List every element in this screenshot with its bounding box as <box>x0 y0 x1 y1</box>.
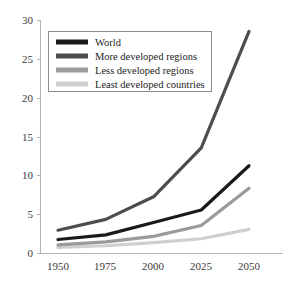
x-tick-label-2025: 2025 <box>190 260 213 272</box>
x-tick-label-2050: 2050 <box>238 260 261 272</box>
x-tick-label-1950: 1950 <box>47 260 70 272</box>
y-tick-label-5: 5 <box>28 208 34 220</box>
y-tick-label-25: 25 <box>22 53 34 65</box>
chart-canvas: 30 25 20 15 10 5 0 1950 1975 2000 2025 2… <box>0 0 290 285</box>
y-tick-marks <box>37 21 41 254</box>
chart-legend: World More developed regions Less develo… <box>49 32 212 92</box>
legend-label-world: World <box>95 37 122 48</box>
line-chart: 30 25 20 15 10 5 0 1950 1975 2000 2025 2… <box>0 0 290 285</box>
legend-label-less-developed-regions: Less developed regions <box>95 65 194 76</box>
series-line-world <box>58 166 249 240</box>
y-tick-label-30: 30 <box>22 14 34 26</box>
y-tick-label-10: 10 <box>22 169 34 181</box>
x-axis-tick-labels: 1950 1975 2000 2025 2050 <box>47 260 261 272</box>
x-tick-label-2000: 2000 <box>142 260 165 272</box>
y-tick-label-20: 20 <box>22 92 34 104</box>
x-tick-label-1975: 1975 <box>94 260 117 272</box>
legend-label-least-developed-countries: Least developed countries <box>95 79 205 90</box>
y-tick-label-0: 0 <box>28 247 34 259</box>
y-axis-tick-labels: 30 25 20 15 10 5 0 <box>22 14 34 259</box>
y-tick-label-15: 15 <box>22 131 34 143</box>
legend-label-more-developed-regions: More developed regions <box>95 51 197 62</box>
